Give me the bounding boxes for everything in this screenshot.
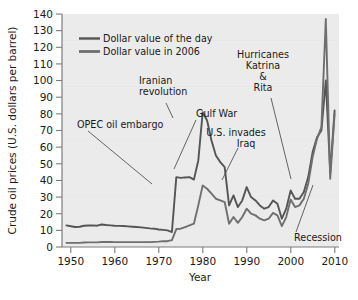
y-tick-label: 130 [33, 24, 53, 36]
annotation-opec-oil-embargo: OPEC oil embargo [77, 119, 163, 130]
y-tick-label: 0 [46, 241, 53, 253]
y-tick-label: 20 [40, 208, 53, 220]
annotation-label: OPEC oil embargo [77, 119, 163, 130]
y-axis-ticks [56, 14, 62, 247]
y-axis-title: Crude oil prices (U.S. dollars per barre… [6, 27, 18, 235]
crude-oil-prices-chart: 140 130 120 110 100 90 80 70 60 50 40 30… [0, 0, 358, 300]
y-tick-label: 90 [40, 91, 53, 103]
chart-svg: 140 130 120 110 100 90 80 70 60 50 40 30… [0, 0, 358, 300]
x-tick-label: 1990 [233, 255, 260, 267]
x-tick-label: 2000 [277, 255, 304, 267]
x-tick-label: 1960 [101, 255, 128, 267]
x-axis-ticks [71, 247, 335, 253]
y-tick-label: 110 [33, 58, 53, 70]
annotation-label: Katrina [246, 60, 280, 71]
annotation-label: & [259, 71, 267, 82]
y-tick-label: 30 [40, 191, 53, 203]
y-tick-label: 70 [40, 124, 53, 136]
legend-label-dollar-value-in-2006: Dollar value in 2006 [103, 46, 200, 57]
x-axis-tick-labels: 1950 1960 1970 1980 1990 2000 2010 [57, 255, 348, 267]
x-tick-label: 1970 [145, 255, 172, 267]
x-axis-title: Year [188, 271, 212, 283]
annotation-label: Iranian [139, 75, 172, 86]
y-tick-label: 40 [40, 174, 53, 186]
y-tick-label: 140 [33, 8, 53, 20]
annotation-recession: Recession [294, 232, 342, 243]
y-tick-label: 100 [33, 74, 53, 86]
y-tick-label: 10 [40, 224, 53, 236]
annotation-label: Hurricanes [237, 49, 289, 60]
annotation-label: Recession [294, 232, 342, 243]
annotation-label: U.S. invades [206, 127, 266, 138]
y-tick-label: 120 [33, 41, 53, 53]
annotation-label: Rita [254, 82, 273, 93]
annotation-label: Iraq [237, 138, 256, 149]
annotation-gulf-war: Gulf War [196, 108, 237, 119]
annotation-label: Gulf War [196, 108, 237, 119]
x-tick-label: 1950 [57, 255, 84, 267]
y-axis-tick-labels: 140 130 120 110 100 90 80 70 60 50 40 30… [33, 8, 53, 253]
annotation-label: revolution [139, 86, 187, 97]
legend-label-dollar-value-of-the-day: Dollar value of the day [103, 33, 213, 44]
x-tick-label: 1980 [189, 255, 216, 267]
y-tick-label: 50 [40, 158, 53, 170]
y-tick-label: 60 [40, 141, 53, 153]
y-tick-label: 80 [40, 108, 53, 120]
x-tick-label: 2010 [321, 255, 348, 267]
